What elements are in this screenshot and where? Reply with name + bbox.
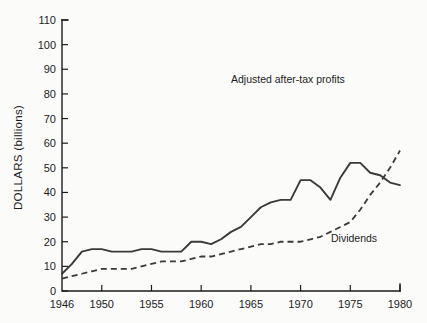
x-tick-label: 1960 [189,298,213,310]
annotation-profits: Adjusted after-tax profits [231,73,345,85]
x-axis-ticks: 19461950195519601965197019751980 [50,285,412,310]
y-tick-label: 70 [44,113,56,125]
series-line-profits [62,163,400,274]
y-tick-label: 20 [44,236,56,248]
series-line-dividends [62,151,400,279]
y-tick-label: 50 [44,162,56,174]
y-axis-ticks: 0102030405060708090100110 [38,14,68,297]
chart-axes [62,20,400,291]
x-tick-label: 1970 [288,298,312,310]
x-tick-label: 1975 [338,298,362,310]
x-tick-label: 1955 [139,298,163,310]
y-tick-label: 10 [44,260,56,272]
y-tick-label: 0 [50,285,56,297]
x-tick-label: 1950 [90,298,114,310]
y-axis-title: DOLLARS (billions) [12,105,24,210]
line-chart: 0102030405060708090100110 19461950195519… [0,0,427,323]
y-tick-label: 40 [44,186,56,198]
y-tick-label: 100 [38,39,56,51]
chart-container: 0102030405060708090100110 19461950195519… [0,0,427,323]
annotation-dividends: Dividends [331,232,377,244]
y-tick-label: 80 [44,88,56,100]
x-tick-label: 1965 [239,298,263,310]
y-tick-label: 60 [44,137,56,149]
x-tick-label: 1946 [50,298,74,310]
y-tick-label: 90 [44,63,56,75]
y-tick-label: 110 [38,14,56,26]
x-tick-label: 1980 [388,298,412,310]
y-tick-label: 30 [44,211,56,223]
